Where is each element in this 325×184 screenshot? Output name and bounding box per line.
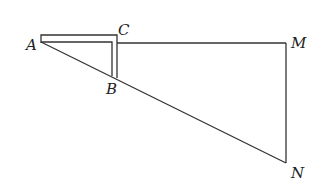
label-A: A [24,36,37,54]
label-N: N [290,164,305,182]
set-square [41,35,117,78]
geometry-diagram: A B C M N [0,0,325,184]
label-M: M [290,34,307,52]
label-C: C [118,21,130,39]
label-B: B [105,80,117,98]
segment-AN [41,42,286,163]
